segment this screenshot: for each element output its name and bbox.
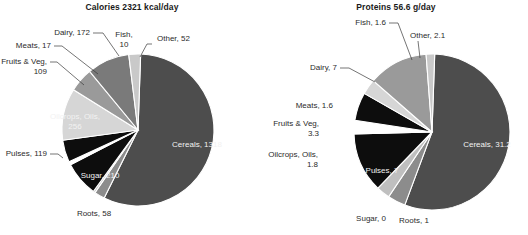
pie-label-meats: Meats, 1.6 bbox=[296, 101, 334, 110]
pie-slices bbox=[62, 54, 214, 206]
leader-line bbox=[50, 154, 63, 158]
pie-label-oilcrops-oils: Oilcrops, Oils, bbox=[50, 112, 100, 121]
pie-label-fruits-veg-value: 3.3 bbox=[308, 129, 320, 138]
pie-label-meats: Meats, 17 bbox=[16, 41, 52, 50]
pie-slices bbox=[354, 54, 510, 210]
pie-label-roots: Roots, 58 bbox=[77, 209, 112, 218]
pie-label-sugar: Sugar, 0 bbox=[356, 214, 386, 223]
pie-chart-figure: Calories 2321 kcal/day Cereals, 1318Othe… bbox=[0, 0, 528, 235]
pie-label-dairy: Dairy, 7 bbox=[310, 63, 338, 72]
pie-label-other: Other, 52 bbox=[157, 34, 190, 43]
proteins-chart-panel: Proteins 56.6 g/day Cereals, 31.2Other, … bbox=[264, 0, 528, 235]
leader-line bbox=[340, 68, 375, 82]
pie-label-fish: Fish, bbox=[115, 30, 132, 39]
pie-label-fruits-veg: Fruits & Veg, bbox=[1, 57, 47, 66]
calories-pie-svg: Cereals, 1318Other, 52Fish,10Dairy, 172M… bbox=[0, 0, 264, 235]
leader-line bbox=[389, 23, 412, 60]
pie-label-sugar: Sugar, 210 bbox=[81, 171, 120, 180]
calories-chart-panel: Calories 2321 kcal/day Cereals, 1318Othe… bbox=[0, 0, 264, 235]
pie-label-other: Other, 2.1 bbox=[410, 31, 446, 40]
pie-label-fish-value: 10 bbox=[120, 40, 129, 49]
pie-label-fish: Fish, 1.6 bbox=[355, 18, 386, 27]
pie-label-pulses: Pulses, 119 bbox=[6, 149, 48, 158]
pie-label-fruits-veg: Fruits & Veg, bbox=[273, 119, 319, 128]
pie-label-pulses: Pulses, 7 bbox=[366, 166, 399, 175]
proteins-pie-svg: Cereals, 31.2Other, 2.1Fish, 1.6Dairy, 7… bbox=[264, 0, 528, 235]
pie-label-cereals: Cereals, 1318 bbox=[172, 140, 222, 149]
pie-label-oilcrops-oils: Oilcrops, Oils, bbox=[268, 150, 318, 159]
pie-label-oilcrops-oils-value: 256 bbox=[68, 122, 82, 131]
pie-label-dairy: Dairy, 172 bbox=[54, 28, 90, 37]
pie-label-cereals: Cereals, 31.2 bbox=[463, 140, 511, 149]
pie-label-fruits-veg-value: 109 bbox=[34, 67, 48, 76]
pie-label-oilcrops-oils-value: 1.8 bbox=[307, 160, 319, 169]
pie-label-roots: Roots, 1 bbox=[399, 216, 429, 225]
